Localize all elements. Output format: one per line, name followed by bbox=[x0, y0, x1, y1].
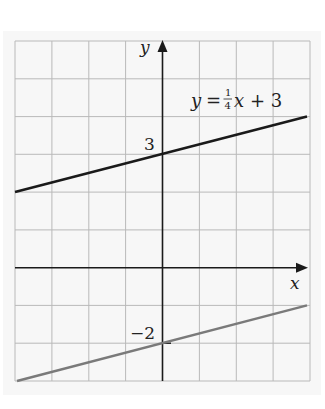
y-intercept-label-minus-2: −2 bbox=[130, 323, 155, 343]
equation-plus-3: + 3 bbox=[250, 90, 282, 111]
equation-equals: = bbox=[206, 90, 221, 111]
equation-label: y = 1 4 x + 3 bbox=[190, 87, 282, 111]
y-axis-arrow-icon bbox=[158, 40, 168, 52]
y-intercept-label-3: 3 bbox=[144, 134, 155, 154]
equation-numerator: 1 bbox=[225, 87, 231, 98]
equation-denominator: 4 bbox=[225, 100, 231, 111]
coordinate-plane: y x 3 −2 y = 1 4 x + 3 bbox=[0, 0, 325, 409]
x-axis-label: x bbox=[290, 273, 300, 293]
x-axis-arrow-icon bbox=[296, 263, 308, 273]
equation-x: x bbox=[234, 90, 244, 111]
y-axis bbox=[158, 40, 168, 381]
equation-prefix: y bbox=[190, 90, 202, 111]
x-axis bbox=[15, 263, 308, 273]
y-axis-label: y bbox=[139, 37, 150, 57]
